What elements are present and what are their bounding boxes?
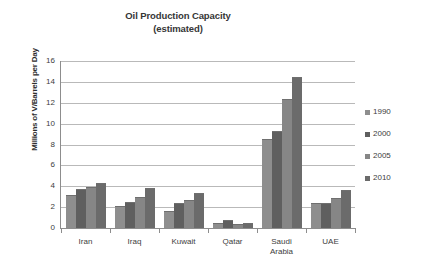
legend-item[interactable]: 1990 bbox=[365, 101, 423, 123]
legend-item[interactable]: 2005 bbox=[365, 145, 423, 167]
bar-groups bbox=[61, 61, 355, 228]
x-axis-label-line: UAE bbox=[306, 237, 355, 247]
bar[interactable] bbox=[184, 200, 194, 228]
bar[interactable] bbox=[331, 198, 341, 228]
bar-group bbox=[61, 61, 110, 228]
bar[interactable] bbox=[194, 193, 204, 228]
x-axis-label-line: Arabia bbox=[257, 247, 306, 257]
x-axis-label: UAE bbox=[306, 237, 355, 257]
x-axis-label: Kuwait bbox=[159, 237, 208, 257]
legend-item[interactable]: 2010 bbox=[365, 167, 423, 189]
x-axis-label: Iran bbox=[61, 237, 110, 257]
legend-label: 2000 bbox=[373, 130, 391, 138]
bar-group bbox=[257, 61, 306, 228]
bar[interactable] bbox=[164, 211, 174, 228]
legend-label: 2005 bbox=[373, 152, 391, 160]
x-axis-tick-mark bbox=[208, 228, 209, 233]
x-axis-label-line: Qatar bbox=[208, 237, 257, 247]
bar-group bbox=[159, 61, 208, 228]
y-axis-tick-label: 4 bbox=[33, 182, 55, 190]
y-axis-tick-label: 6 bbox=[33, 161, 55, 169]
bar-group bbox=[110, 61, 159, 228]
bar[interactable] bbox=[145, 188, 155, 228]
bar-group bbox=[208, 61, 257, 228]
x-axis-label-line: Iran bbox=[61, 237, 110, 247]
bar[interactable] bbox=[125, 202, 135, 228]
legend-label: 2010 bbox=[373, 174, 391, 182]
x-axis-tick-marks bbox=[61, 228, 355, 234]
bar[interactable] bbox=[76, 189, 86, 228]
x-axis-tick-mark bbox=[110, 228, 111, 233]
bar[interactable] bbox=[66, 195, 76, 228]
x-axis-label-line: Iraq bbox=[110, 237, 159, 247]
x-axis-tick-mark bbox=[159, 228, 160, 233]
x-axis-labels: IranIraqKuwaitQatarSaudiArabiaUAE bbox=[61, 237, 355, 257]
legend-swatch-icon bbox=[365, 132, 370, 137]
legend-swatch-icon bbox=[365, 154, 370, 159]
y-axis-tick-label: 16 bbox=[33, 57, 55, 65]
plot-area bbox=[61, 61, 355, 228]
x-axis-label: Iraq bbox=[110, 237, 159, 257]
bar[interactable] bbox=[262, 139, 272, 228]
chart-title-line1: Oil Production Capacity bbox=[125, 10, 230, 21]
bar[interactable] bbox=[311, 203, 321, 228]
bar[interactable] bbox=[292, 77, 302, 228]
x-axis-tick-mark bbox=[306, 228, 307, 233]
chart-title: Oil Production Capacity (estimated) bbox=[0, 9, 356, 35]
y-axis-tick-labels: 0246810121416 bbox=[33, 61, 55, 228]
x-axis-label-line: Kuwait bbox=[159, 237, 208, 247]
bar[interactable] bbox=[96, 183, 106, 228]
bar[interactable] bbox=[223, 220, 233, 228]
legend-swatch-icon bbox=[365, 176, 370, 181]
y-axis-tick-label: 12 bbox=[33, 99, 55, 107]
bar[interactable] bbox=[272, 131, 282, 228]
legend: 1990200020052010 bbox=[365, 101, 423, 189]
y-axis-tick-label: 0 bbox=[33, 224, 55, 232]
x-axis-label: Qatar bbox=[208, 237, 257, 257]
legend-item[interactable]: 2000 bbox=[365, 123, 423, 145]
chart-subtitle: (estimated) bbox=[0, 22, 356, 35]
y-axis-tick-label: 8 bbox=[33, 141, 55, 149]
y-axis-tick-label: 14 bbox=[33, 78, 55, 86]
x-axis-tick-mark bbox=[355, 228, 356, 233]
bar[interactable] bbox=[282, 99, 292, 228]
bar[interactable] bbox=[115, 206, 125, 228]
bar[interactable] bbox=[135, 197, 145, 228]
legend-swatch-icon bbox=[365, 110, 370, 115]
x-axis-tick-mark bbox=[257, 228, 258, 233]
y-axis-tick-label: 2 bbox=[33, 203, 55, 211]
x-axis-label: SaudiArabia bbox=[257, 237, 306, 257]
bar-chart: Oil Production Capacity (estimated) Mill… bbox=[0, 0, 426, 279]
bar[interactable] bbox=[321, 203, 331, 228]
bar[interactable] bbox=[86, 187, 96, 228]
bar[interactable] bbox=[341, 190, 351, 228]
x-axis-tick-mark bbox=[61, 228, 62, 233]
x-axis-label-line: Saudi bbox=[257, 237, 306, 247]
bar-group bbox=[306, 61, 355, 228]
legend-label: 1990 bbox=[373, 108, 391, 116]
bar[interactable] bbox=[174, 203, 184, 228]
y-axis-tick-label: 10 bbox=[33, 120, 55, 128]
